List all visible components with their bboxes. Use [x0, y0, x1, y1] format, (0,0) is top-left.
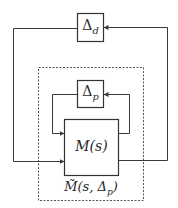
augmented-system-label: M̃(s, Δp) [39, 179, 143, 197]
delta-d-symbol: Δ [82, 17, 92, 33]
delta-p-label: Δp [77, 83, 104, 102]
augmented-label-end: ) [113, 179, 118, 194]
delta-d-label: Δd [77, 17, 104, 36]
delta-d-subscript: d [92, 25, 98, 36]
m-block-label: M(s) [64, 138, 119, 154]
augmented-label-main: M̃(s, Δ [64, 179, 107, 194]
delta-p-subscript: p [92, 91, 98, 102]
delta-p-symbol: Δ [82, 83, 92, 99]
